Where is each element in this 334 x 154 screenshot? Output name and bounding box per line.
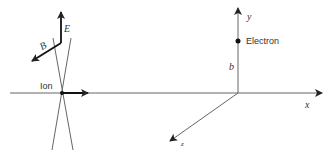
e-field-label: E [64, 24, 70, 34]
y-axis-label: y [247, 12, 251, 22]
x-axis-label: x [305, 100, 309, 110]
diagram-canvas [0, 0, 334, 154]
electron-dot [236, 39, 241, 44]
z-axis [170, 93, 238, 141]
b-distance-label: b [229, 62, 234, 72]
z-axis-label: z [181, 141, 184, 148]
ion-label: Ion [40, 82, 53, 91]
electron-label: Electron [246, 37, 279, 46]
